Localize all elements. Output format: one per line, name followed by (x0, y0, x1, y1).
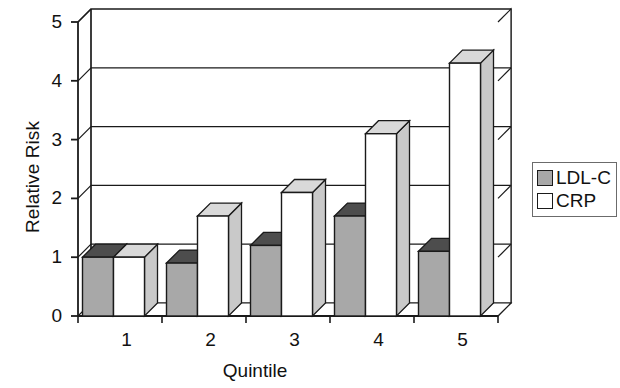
bar-crp-q1 (0, 0, 620, 388)
bar-chart-figure: Relative Risk Quintile 012345 12345 LDL-… (0, 0, 620, 388)
bar-body (0, 0, 620, 388)
bar-shadow (0, 0, 620, 388)
